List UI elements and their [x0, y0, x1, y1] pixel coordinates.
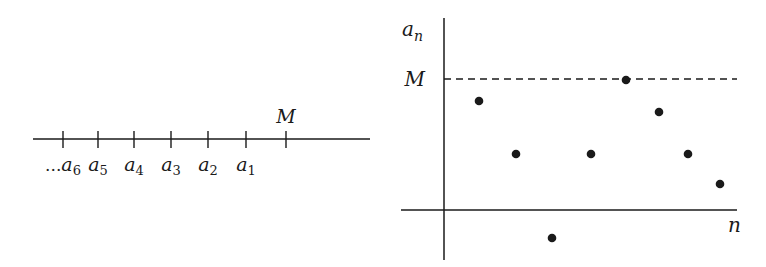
term-label: a5: [88, 153, 108, 178]
sequence-point: [716, 180, 725, 189]
term-label: ...a6: [45, 153, 81, 178]
y-axis-label: an: [402, 17, 423, 44]
sequence-point: [512, 150, 521, 159]
sequence-point: [622, 76, 631, 85]
sequence-point: [475, 97, 484, 106]
x-axis-label: n: [728, 213, 741, 237]
sequence-point: [587, 150, 596, 159]
sequence-plot: anMn: [401, 17, 741, 260]
sequence-point: [655, 108, 664, 117]
sequence-point: [684, 150, 693, 159]
term-label: a4: [124, 153, 144, 178]
bound-label: M: [404, 67, 426, 91]
bound-label: M: [275, 105, 296, 127]
term-label: a2: [198, 153, 218, 178]
term-label: a3: [161, 153, 181, 178]
sequence-point: [548, 234, 557, 243]
term-label: a1: [236, 153, 256, 178]
sequence-bounded-above-diagram: ...a6a5a4a3a2a1M anMn: [0, 0, 766, 267]
number-line-diagram: ...a6a5a4a3a2a1M: [33, 105, 370, 178]
